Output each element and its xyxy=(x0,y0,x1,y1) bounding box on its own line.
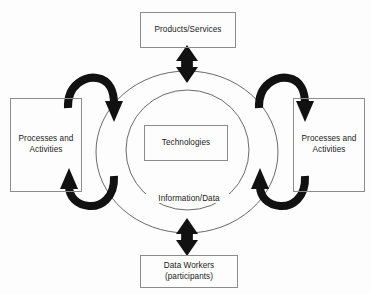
top-double-arrow-icon xyxy=(176,45,198,83)
node-technologies[interactable]: Technologies xyxy=(144,125,228,161)
node-products-services-label: Products/Services xyxy=(141,25,235,36)
node-processes-left[interactable]: Processes and Activities xyxy=(10,98,82,192)
label-information-data: Information/Data xyxy=(139,194,239,203)
node-technologies-label: Technologies xyxy=(145,138,227,149)
node-processes-left-line2: Activities xyxy=(13,145,79,156)
node-processes-right[interactable]: Processes and Activities xyxy=(293,98,365,192)
node-processes-right-line2: Activities xyxy=(296,145,362,156)
node-products-services[interactable]: Products/Services xyxy=(140,12,236,48)
node-data-workers-line2: (participants) xyxy=(143,272,235,283)
node-data-workers-line1: Data Workers xyxy=(143,261,235,272)
bottom-double-arrow-icon xyxy=(176,218,198,256)
node-processes-left-line1: Processes and xyxy=(13,134,79,145)
node-processes-right-line1: Processes and xyxy=(296,134,362,145)
node-data-workers[interactable]: Data Workers (participants) xyxy=(140,255,238,288)
diagram-canvas: Products/Services Processes and Activiti… xyxy=(0,0,371,294)
